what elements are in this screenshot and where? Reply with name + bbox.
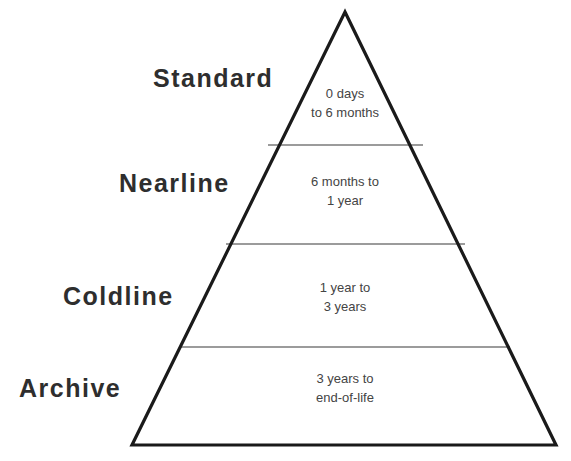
tier-label-standard: Standard (153, 66, 273, 91)
tier-range-nearline: 6 months to 1 year (265, 172, 425, 210)
tier-range-archive-line2: end-of-life (265, 388, 425, 407)
tier-range-standard: 0 days to 6 months (265, 84, 425, 122)
tier-range-archive: 3 years to end-of-life (265, 369, 425, 407)
tier-range-coldline: 1 year to 3 years (265, 278, 425, 316)
tier-label-coldline: Coldline (63, 284, 174, 309)
tier-label-nearline: Nearline (119, 171, 230, 196)
tier-range-nearline-line2: 1 year (265, 191, 425, 210)
tier-range-nearline-line1: 6 months to (265, 172, 425, 191)
tier-range-standard-line2: to 6 months (265, 103, 425, 122)
tier-range-standard-line1: 0 days (265, 84, 425, 103)
storage-class-pyramid-diagram: Standard Nearline Coldline Archive 0 day… (0, 0, 571, 461)
tier-label-archive: Archive (19, 376, 121, 401)
tier-range-coldline-line1: 1 year to (265, 278, 425, 297)
tier-range-archive-line1: 3 years to (265, 369, 425, 388)
tier-range-coldline-line2: 3 years (265, 297, 425, 316)
